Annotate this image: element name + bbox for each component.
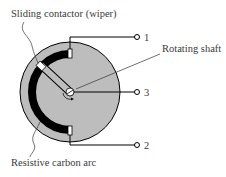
terminal-1-node (135, 35, 140, 40)
terminal-2-label: 2 (144, 140, 149, 151)
potentiometer-diagram: Sliding contactor (wiper) Rotating shaft… (0, 0, 226, 177)
label-shaft: Rotating shaft (162, 43, 221, 54)
label-arc: Resistive carbon arc (11, 157, 96, 168)
arc-end-contact-bottom (68, 126, 72, 135)
terminal-1-label: 1 (144, 32, 149, 43)
label-wiper: Sliding contactor (wiper) (11, 8, 117, 20)
arc-end-contact-top (68, 49, 72, 58)
terminal-2-node (135, 143, 140, 148)
terminal-3-node (135, 90, 140, 95)
terminal-3-label: 3 (144, 87, 149, 98)
leader-wiper (22, 22, 38, 63)
